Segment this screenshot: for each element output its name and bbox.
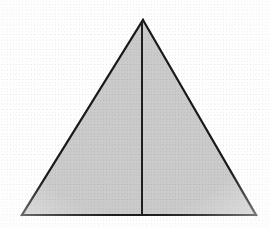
apex-vertex-point <box>142 19 144 21</box>
figure-canvas <box>0 0 269 228</box>
bottom-right-vertex-point <box>255 214 257 216</box>
bottom-left-vertex-point <box>21 214 23 216</box>
triangle-diagram <box>0 0 269 228</box>
